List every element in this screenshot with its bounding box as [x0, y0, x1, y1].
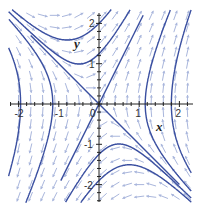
arrowhead-icon: [29, 126, 32, 129]
y-axis-label: y: [72, 36, 80, 51]
arrowhead-icon: [65, 114, 68, 117]
arrowhead-icon: [29, 114, 32, 117]
arrowhead-icon: [53, 138, 56, 141]
trajectory-curve: [171, 10, 191, 173]
y-tick-label: 1: [89, 59, 95, 70]
arrowhead-icon: [126, 95, 129, 98]
arrowhead-icon: [150, 95, 153, 98]
arrowhead-icon: [138, 95, 141, 98]
arrowhead-icon: [162, 95, 165, 98]
arrowhead-icon: [186, 107, 189, 110]
x-tick-label: 1: [135, 108, 141, 119]
x-axis-label: x: [155, 119, 163, 134]
arrowhead-icon: [110, 147, 113, 150]
y-tick-label: 2: [89, 18, 95, 29]
arrowhead-icon: [162, 107, 165, 110]
x-tick-label: -2: [15, 108, 24, 119]
arrowhead-icon: [45, 14, 48, 17]
y-tick-label: -1: [84, 139, 93, 150]
x-tick-label: 2: [175, 108, 181, 119]
arrowhead-icon: [138, 71, 141, 74]
x-tick-label: 0: [90, 108, 96, 119]
arrowhead-icon: [114, 95, 117, 98]
arrowhead-icon: [29, 90, 32, 93]
arrowhead-icon: [16, 162, 19, 165]
arrowhead-icon: [57, 14, 60, 17]
arrowhead-icon: [146, 195, 149, 198]
arrowhead-icon: [93, 86, 96, 89]
arrowhead-icon: [69, 13, 72, 16]
phase-portrait-plot: -2-1012-2-112 y x: [0, 0, 203, 205]
arrowhead-icon: [162, 83, 165, 86]
arrowhead-icon: [186, 95, 189, 98]
arrowhead-icon: [186, 83, 189, 86]
arrowhead-icon: [122, 159, 125, 162]
trajectory-curve: [66, 144, 192, 202]
arrowhead-icon: [149, 107, 152, 110]
arrowhead-icon: [41, 114, 44, 117]
arrowhead-icon: [110, 135, 113, 138]
arrowhead-icon: [186, 119, 189, 122]
arrowhead-icon: [134, 183, 137, 186]
arrowhead-icon: [122, 146, 125, 149]
x-tick-label: -1: [55, 108, 64, 119]
arrowhead-icon: [187, 35, 190, 38]
arrowhead-icon: [186, 71, 189, 74]
y-tick-label: -2: [84, 180, 93, 191]
arrowhead-icon: [150, 83, 153, 86]
arrowhead-icon: [174, 83, 177, 86]
arrowhead-icon: [134, 195, 137, 198]
arrowhead-icon: [174, 95, 177, 98]
arrowhead-icon: [30, 78, 33, 81]
trajectory-curve: [9, 10, 131, 64]
